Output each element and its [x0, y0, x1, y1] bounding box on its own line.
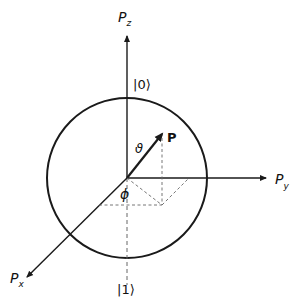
bloch-sphere-diagram: Pz |0⟩ P ϑ ϕ Py Px |1⟩	[0, 0, 297, 305]
state-vector-p	[127, 134, 162, 178]
phi-label: ϕ	[120, 186, 129, 202]
axis-z-label: Pz	[118, 9, 131, 28]
ket-one-label: |1⟩	[117, 282, 135, 297]
axis-y-label: Py	[275, 171, 289, 191]
x-axis	[27, 178, 127, 277]
theta-label: ϑ	[135, 141, 143, 156]
ket-zero-label: |0⟩	[133, 77, 151, 92]
vector-p-label: P	[167, 130, 177, 145]
projection-lines	[99, 138, 189, 205]
axis-x-label: Px	[10, 270, 24, 289]
